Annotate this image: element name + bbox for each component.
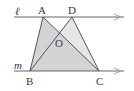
label-point-b: B [26,75,33,87]
geometry-diagram: ℓ A D O m B C [0,0,134,91]
label-line-l: ℓ [15,5,20,17]
label-point-o: O [55,37,63,49]
triangle-abc-shading [30,17,99,71]
label-point-a: A [38,4,46,16]
label-point-d: D [68,4,76,16]
label-point-c: C [96,75,103,87]
label-line-m: m [14,59,22,71]
